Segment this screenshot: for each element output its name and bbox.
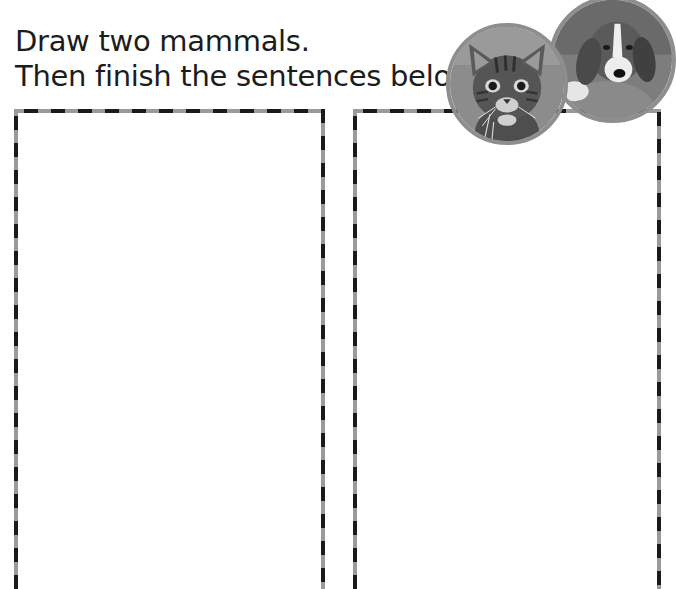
beagle-puppy-image <box>553 0 672 119</box>
dashed-border <box>353 109 661 589</box>
instruction-line-1: Draw two mammals. <box>15 24 481 59</box>
drawing-area-1[interactable] <box>14 109 325 589</box>
kitten-photo <box>446 23 568 145</box>
instructions: Draw two mammals. Then finish the senten… <box>15 24 481 94</box>
drawing-area-2[interactable] <box>353 109 661 589</box>
instruction-line-2: Then finish the sentences below. <box>15 59 481 94</box>
dashed-border <box>14 109 325 589</box>
dog-photo <box>549 0 676 123</box>
tabby-kitten-image <box>450 27 564 141</box>
